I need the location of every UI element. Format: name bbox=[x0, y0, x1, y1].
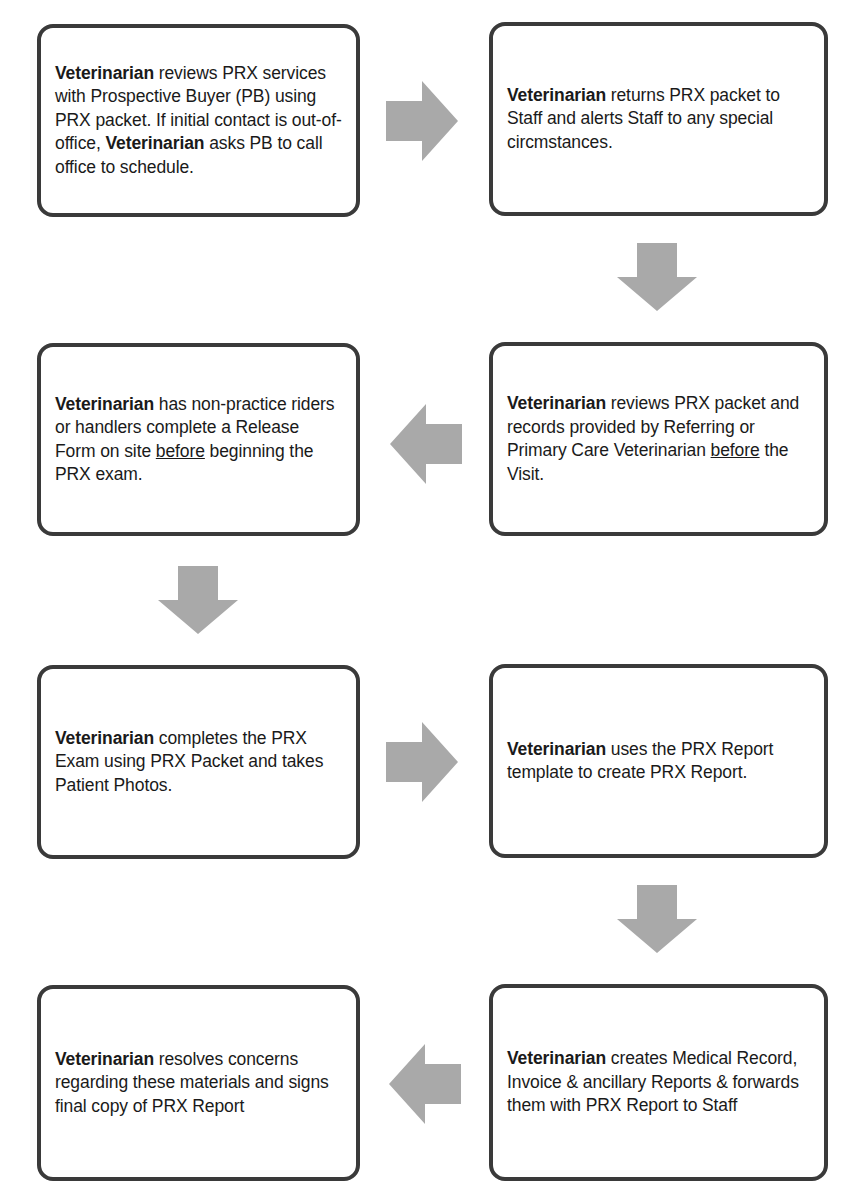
arrow-left-icon bbox=[389, 1044, 461, 1124]
step-7-box: Veterinarian creates Medical Record, Inv… bbox=[489, 984, 828, 1181]
step-3-box: Veterinarian reviews PRX packet and reco… bbox=[489, 342, 828, 536]
arrow-right-icon bbox=[386, 722, 458, 802]
step-6-box: Veterinarian uses the PRX Report templat… bbox=[489, 664, 828, 858]
arrow-down-icon bbox=[617, 885, 697, 953]
step-8-box: Veterinarian resolves concerns regarding… bbox=[37, 985, 360, 1181]
arrow-left-icon bbox=[390, 404, 462, 484]
step-5-text: Veterinarian completes the PRX Exam usin… bbox=[55, 727, 342, 798]
step-1-text: Veterinarian reviews PRX services with P… bbox=[55, 62, 342, 180]
step-8-text: Veterinarian resolves concerns regarding… bbox=[55, 1048, 342, 1119]
step-4-text: Veterinarian has non-practice riders or … bbox=[55, 393, 342, 487]
arrow-right-icon bbox=[386, 81, 458, 161]
arrow-down-icon bbox=[158, 566, 238, 634]
step-2-box: Veterinarian returns PRX packet to Staff… bbox=[489, 22, 828, 216]
step-3-text: Veterinarian reviews PRX packet and reco… bbox=[507, 392, 810, 486]
step-1-box: Veterinarian reviews PRX services with P… bbox=[37, 24, 360, 217]
step-7-text: Veterinarian creates Medical Record, Inv… bbox=[507, 1047, 810, 1118]
step-4-box: Veterinarian has non-practice riders or … bbox=[37, 343, 360, 536]
arrow-down-icon bbox=[617, 243, 697, 311]
step-6-text: Veterinarian uses the PRX Report templat… bbox=[507, 738, 810, 785]
step-5-box: Veterinarian completes the PRX Exam usin… bbox=[37, 665, 360, 859]
step-2-text: Veterinarian returns PRX packet to Staff… bbox=[507, 84, 810, 155]
